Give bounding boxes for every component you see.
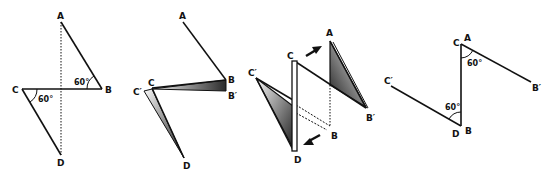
label-d: D <box>452 129 459 139</box>
hidden-edge <box>296 113 327 130</box>
label-c-prime: C′ <box>384 76 394 86</box>
label-a: A <box>464 33 471 43</box>
label-b: B <box>331 131 338 141</box>
label-c: C <box>12 85 19 95</box>
angle-label-d: 60° <box>445 103 460 112</box>
angle-label-a: 60° <box>467 59 482 68</box>
label-c: C <box>287 51 294 61</box>
segment-cd <box>152 88 184 158</box>
panel-4: A C B′ C′ D B 60° 60° <box>384 33 542 139</box>
strip-cd <box>292 61 297 151</box>
label-a: A <box>326 28 333 38</box>
label-b-prime: B′ <box>228 91 238 101</box>
label-b-prime: B′ <box>366 113 376 123</box>
panel-2: A B B′ C C′ D <box>133 11 238 171</box>
label-a: A <box>179 11 186 21</box>
fold-diagram: A B C D 60° 60° A B B′ C C′ D <box>0 0 548 176</box>
hidden-edge <box>296 105 330 126</box>
arrow-down-left-icon <box>303 135 320 145</box>
angle-arc-d <box>449 112 461 119</box>
folded-flap-c <box>144 89 184 158</box>
segment-ab <box>183 22 226 80</box>
label-c: C <box>453 38 460 48</box>
angle-arc-c <box>30 89 37 102</box>
angle-label-b: 60° <box>74 78 89 87</box>
angle-arc-a <box>461 50 473 58</box>
label-b: B <box>465 126 472 136</box>
label-c-prime: C′ <box>248 68 258 78</box>
panel-3: A C C′ B′ B D <box>248 28 376 165</box>
label-c-prime: C′ <box>133 87 143 97</box>
panel-1: A B C D 60° 60° <box>12 11 112 168</box>
arrow-up-right-icon <box>306 46 322 56</box>
label-d: D <box>183 161 190 171</box>
label-c: C <box>148 78 155 88</box>
label-d: D <box>57 158 64 168</box>
label-b-prime: B′ <box>532 83 542 93</box>
label-b: B <box>105 85 112 95</box>
label-a: A <box>57 11 64 21</box>
angle-label-c: 60° <box>38 95 53 104</box>
label-b: B <box>228 75 235 85</box>
label-d: D <box>294 155 301 165</box>
